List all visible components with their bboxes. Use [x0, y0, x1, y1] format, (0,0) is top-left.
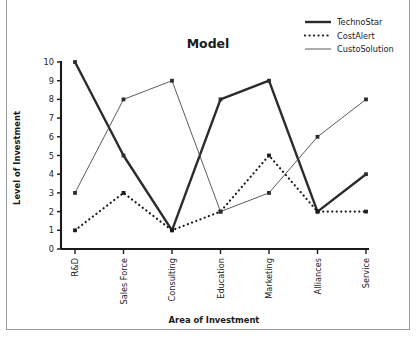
- y-tick-label: 2: [49, 207, 54, 217]
- data-point: [73, 228, 77, 232]
- legend-label: CustoSolution: [337, 44, 394, 54]
- data-series-group: [73, 60, 368, 232]
- legend-label: CostAlert: [337, 31, 375, 41]
- data-point: [73, 60, 77, 64]
- data-point: [267, 191, 271, 195]
- legend-label: TechnoStar: [336, 17, 383, 27]
- legend-item-custosolution[interactable]: CustoSolution: [305, 44, 394, 54]
- data-point: [364, 210, 368, 214]
- y-tick-label: 6: [49, 132, 54, 142]
- data-point: [170, 228, 174, 232]
- chart-title: Model: [187, 36, 230, 51]
- y-tick-label: 3: [49, 188, 54, 198]
- data-point: [73, 191, 77, 195]
- series-technostar: [73, 60, 368, 232]
- chart-legend: TechnoStarCostAlertCustoSolution: [305, 17, 394, 54]
- x-tick-label: Marketing: [264, 258, 274, 299]
- data-point: [170, 79, 174, 83]
- data-point: [316, 135, 320, 139]
- data-point: [316, 210, 320, 214]
- series-costalert: [73, 154, 368, 233]
- x-tick-label: Sales Force: [119, 258, 129, 305]
- x-axis-title: Area of Investment: [169, 315, 260, 325]
- y-tick-label: 1: [49, 225, 54, 235]
- y-axis: 012345678910: [44, 57, 61, 254]
- line-chart-canvas: Model Level of Investment Area of Invest…: [0, 0, 417, 353]
- x-tick-label: R&D: [70, 258, 80, 276]
- x-axis: R&DSales ForceConsultingEducationMarketi…: [61, 249, 371, 305]
- data-point: [219, 210, 223, 214]
- y-tick-label: 5: [49, 151, 54, 161]
- chart-figure: Model Level of Investment Area of Invest…: [0, 0, 417, 353]
- legend-item-technostar[interactable]: TechnoStar: [305, 17, 383, 27]
- y-axis-title: Level of Investment: [12, 111, 22, 205]
- y-tick-label: 4: [49, 169, 54, 179]
- y-tick-label: 8: [49, 94, 54, 104]
- y-tick-label: 9: [49, 76, 54, 86]
- data-point: [364, 172, 368, 176]
- data-point: [219, 98, 223, 102]
- legend-item-costalert[interactable]: CostAlert: [305, 31, 375, 41]
- data-point: [267, 154, 271, 158]
- y-tick-label: 0: [49, 244, 54, 254]
- data-point: [364, 98, 368, 102]
- data-point: [122, 191, 126, 195]
- x-tick-label: Service: [361, 258, 371, 288]
- y-tick-label: 7: [49, 113, 54, 123]
- data-point: [122, 98, 126, 102]
- x-tick-label: Education: [216, 258, 226, 299]
- x-tick-label: Consulting: [167, 258, 177, 302]
- x-tick-label: Alliances: [313, 258, 323, 294]
- y-tick-label: 10: [44, 57, 54, 67]
- data-point: [122, 154, 126, 158]
- data-point: [267, 79, 271, 83]
